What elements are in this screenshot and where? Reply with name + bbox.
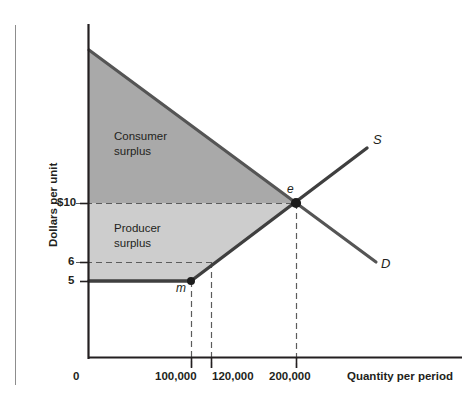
producer-surplus-label: Producer surplus <box>114 221 161 251</box>
x-tick-label-120000: 120,000 <box>212 370 254 382</box>
supply-demand-figure: Dollars per unit $10 6 5 0 100,000 120,0… <box>0 0 476 407</box>
kink-point-label: m <box>176 281 186 295</box>
x-origin-label: 0 <box>73 370 79 382</box>
y-tick-label-5: 5 <box>68 274 74 286</box>
supply-curve-label: S <box>373 132 382 147</box>
y-tick-label-10: $10 <box>57 196 76 208</box>
equilibrium-point-marker <box>291 198 301 208</box>
equilibrium-point-label: e <box>287 182 294 196</box>
kink-point-marker <box>187 277 195 285</box>
producer-surplus-label-line1: Producer <box>114 222 161 234</box>
x-axis-title: Quantity per period <box>347 370 453 382</box>
demand-curve-label: D <box>381 256 390 271</box>
x-tick-label-100000: 100,000 <box>155 370 197 382</box>
consumer-surplus-label: Consumer surplus <box>114 129 167 159</box>
consumer-surplus-label-line1: Consumer <box>114 130 167 142</box>
x-tick-label-200000: 200,000 <box>269 370 311 382</box>
producer-surplus-label-line2: surplus <box>114 237 151 249</box>
consumer-surplus-label-line2: surplus <box>114 145 151 157</box>
y-tick-label-6: 6 <box>68 255 74 267</box>
